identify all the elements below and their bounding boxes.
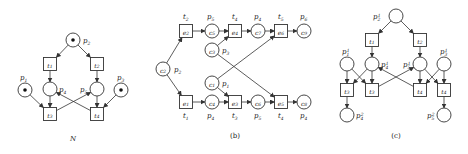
place-c5: c5p5 <box>205 13 219 38</box>
transition-t1: t1 <box>44 58 57 71</box>
arc-p31-t4a <box>426 69 439 83</box>
arc-p21-t2c <box>401 21 414 34</box>
place-outer-label: p3 <box>222 47 229 56</box>
transition-t4a: t4 <box>414 84 427 97</box>
place-p11: p11 <box>340 48 354 72</box>
place-outer-label: p4 <box>207 112 214 121</box>
place-circle <box>340 108 354 122</box>
token-icon <box>23 88 27 92</box>
captions-layer: N(b)(c) <box>69 132 401 143</box>
panel-N: p2p1p4p5p3t1t2t3t4 <box>18 33 128 121</box>
transition-t3: t3 <box>44 108 57 121</box>
place-label: p5 <box>80 86 87 95</box>
place-outer-label: p5 <box>207 13 214 22</box>
place-c7: c7p4 <box>251 13 265 38</box>
place-c4: c4p4 <box>205 95 219 121</box>
transition-t3a: t3 <box>341 84 354 97</box>
transition-e5: e5t4 <box>275 96 288 121</box>
transition-outer-label: t5 <box>278 13 284 22</box>
arc-c3-e4 <box>217 36 228 45</box>
place-circle <box>43 82 57 96</box>
place-circle <box>90 82 104 96</box>
transition-outer-label: t1 <box>183 112 189 121</box>
arc-p51-t4b <box>425 69 438 83</box>
place-circle <box>389 9 403 23</box>
transition-e1: e1t1 <box>180 96 193 121</box>
place-label: p52 <box>427 112 435 121</box>
place-outer-label: p5 <box>254 112 261 121</box>
transition-e4: e4t4 <box>229 13 242 38</box>
arc-c2-e2 <box>167 38 182 64</box>
transition-outer-label: t4 <box>232 13 238 22</box>
token-icon <box>71 38 75 42</box>
place-outer-label: p6 <box>300 13 307 22</box>
place-label: p4 <box>59 86 66 95</box>
arc-c1-e6 <box>218 36 275 79</box>
place-label: p51 <box>403 61 411 70</box>
arc-p3-t4 <box>104 95 117 108</box>
transition-outer-label: t4 <box>278 112 284 121</box>
place-p2: p2 <box>66 33 90 47</box>
place-circle <box>437 108 451 122</box>
arc-p2-t1 <box>56 45 68 57</box>
place-c3: c3p3 <box>205 43 229 57</box>
place-p51: p51 <box>403 57 427 71</box>
arc-c1-e3 <box>217 87 228 96</box>
place-c6: c6p5 <box>251 95 265 121</box>
transition-e3: e3t3 <box>229 96 242 121</box>
place-label: p3 <box>117 74 124 83</box>
place-p1: p1 <box>18 74 32 97</box>
place-p3: p3 <box>114 74 128 97</box>
place-label: p41 <box>381 61 389 70</box>
place-label: p31 <box>440 48 448 57</box>
place-label: p21 <box>373 13 381 22</box>
transition-t2c: t2 <box>414 34 427 47</box>
transition-outer-label: t3 <box>232 112 238 121</box>
place-p52: p52 <box>427 108 451 122</box>
place-p42: p42 <box>340 108 364 122</box>
arc-p1-t3 <box>30 95 43 108</box>
place-circle <box>340 57 354 71</box>
place-p4: p4 <box>43 82 66 96</box>
caption-0: N <box>69 135 77 143</box>
place-c2: c2p2 <box>156 62 181 76</box>
place-label: p1 <box>20 74 27 83</box>
transition-e6: e6t5 <box>275 13 288 38</box>
place-label: p2 <box>83 37 90 46</box>
transition-t1c: t1 <box>366 34 379 47</box>
transition-t2: t2 <box>91 58 104 71</box>
place-label: p42 <box>356 112 364 121</box>
caption-2: (c) <box>391 132 401 140</box>
arc-p41-t3a <box>353 69 367 83</box>
arc-p2-t2 <box>78 45 91 58</box>
place-c8: c8p4 <box>297 95 311 121</box>
caption-1: (b) <box>230 132 240 140</box>
petri-net-figure: p2p1p4p5p3t1t2t3t4c2p2c5p5c3p3c7p4c9p6c1… <box>0 0 468 154</box>
place-c9: c9p6 <box>297 13 311 38</box>
token-icon <box>119 88 123 92</box>
place-outer-label: p4 <box>254 13 261 22</box>
place-circle <box>413 57 427 71</box>
transition-e2: e2t2 <box>180 13 193 38</box>
arc-p11-t3b <box>352 69 366 83</box>
panel-c: p21p11p41p51p31p42p52t1t2t3t3t4t4 <box>340 9 451 122</box>
transition-t3b: t3 <box>366 84 379 97</box>
place-outer-label: p1 <box>222 80 229 89</box>
transition-t4b: t4 <box>438 84 451 97</box>
transition-t4: t4 <box>91 108 104 121</box>
arc-c3-e5 <box>218 54 275 97</box>
transition-outer-label: t2 <box>183 13 189 22</box>
place-p41: p41 <box>365 57 389 71</box>
place-circle <box>365 57 379 71</box>
place-label: p11 <box>342 48 350 57</box>
place-outer-label: p4 <box>300 112 307 121</box>
arc-c2-e1 <box>167 75 181 96</box>
place-p21: p21 <box>373 9 403 23</box>
place-outer-label: p2 <box>174 66 181 75</box>
place-p31: p31 <box>437 48 451 72</box>
place-c1: c1p1 <box>205 76 229 90</box>
arc-p21-t1c <box>379 21 392 34</box>
place-circle <box>437 57 451 71</box>
place-p5: p5 <box>80 82 104 96</box>
